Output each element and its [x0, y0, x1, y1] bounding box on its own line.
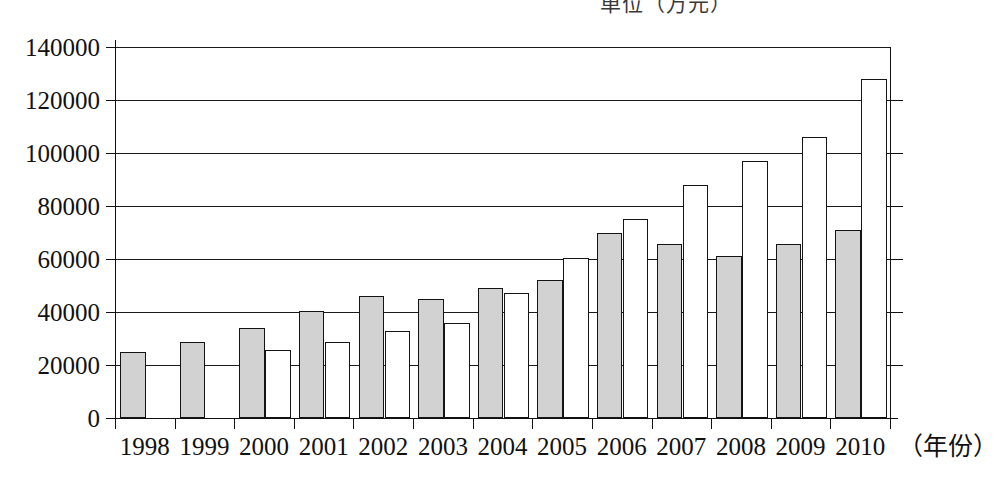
x-tick-2003	[413, 418, 414, 429]
x-tick-2010	[830, 418, 831, 429]
bar-2003-series1	[418, 299, 444, 418]
x-tick-label-2010: 2010	[835, 434, 885, 459]
bar-1998-series1	[120, 352, 146, 418]
x-tick-2000	[234, 418, 235, 429]
x-tick-label-2006: 2006	[597, 434, 647, 459]
bar-2005-series1	[537, 280, 563, 418]
bar-2006-series2	[623, 219, 649, 418]
bar-2004-series2	[504, 293, 530, 418]
bar-2008-series2	[742, 161, 768, 418]
bar-2009-series1	[776, 244, 802, 418]
bar-2010-series1	[835, 230, 861, 418]
bar-2008-series1	[716, 256, 742, 418]
x-tick-2005	[532, 418, 533, 429]
x-axis-title: （年份）	[898, 434, 998, 459]
x-tick-label-2007: 2007	[656, 434, 706, 459]
x-tick-2008	[711, 418, 712, 429]
x-tick-1998	[115, 418, 116, 429]
x-tick-label-2008: 2008	[716, 434, 766, 459]
bar-2010-series2	[861, 79, 887, 418]
bar-2003-series2	[444, 323, 470, 418]
bar-2000-series2	[265, 350, 291, 418]
bar-2006-series1	[597, 233, 623, 419]
x-tick-label-2004: 2004	[478, 434, 528, 459]
bars-layer	[0, 0, 999, 496]
bar-2007-series2	[683, 185, 709, 418]
x-tick-2007	[652, 418, 653, 429]
bar-2002-series2	[385, 331, 411, 418]
bar-2009-series2	[802, 137, 828, 418]
x-tick-label-1998: 1998	[120, 434, 170, 459]
x-tick-label-2000: 2000	[239, 434, 289, 459]
x-tick-2009	[771, 418, 772, 429]
bar-1999-series1	[180, 342, 206, 418]
bar-2004-series1	[478, 288, 504, 418]
x-tick-1999	[175, 418, 176, 429]
bar-2000-series1	[239, 328, 265, 418]
x-tick-2004	[473, 418, 474, 429]
x-tick-label-2002: 2002	[358, 434, 408, 459]
x-tick-label-2009: 2009	[776, 434, 826, 459]
x-tick-end	[890, 418, 891, 429]
x-tick-label-1999: 1999	[179, 434, 229, 459]
x-tick-2001	[294, 418, 295, 429]
bar-chart: 单位（万元） 140000 120000 100000 80000 60000 …	[0, 0, 999, 496]
x-tick-label-2003: 2003	[418, 434, 468, 459]
x-tick-2006	[592, 418, 593, 429]
x-tick-2002	[353, 418, 354, 429]
x-tick-label-2001: 2001	[299, 434, 349, 459]
bar-2001-series1	[299, 311, 325, 418]
bar-2005-series2	[563, 258, 589, 418]
bar-2001-series2	[325, 342, 351, 418]
bar-2007-series1	[657, 244, 683, 418]
x-tick-label-2005: 2005	[537, 434, 587, 459]
bar-2002-series1	[359, 296, 385, 418]
